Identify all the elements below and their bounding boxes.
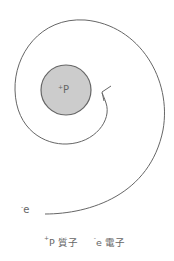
nucleus-label: +P: [58, 84, 69, 95]
arrow-head-icon: [102, 86, 111, 101]
electron-label: -e: [21, 204, 29, 215]
legend-item-proton: +P 質子: [44, 237, 81, 248]
electron-spiral-path: [15, 20, 165, 214]
atom-diagram: [0, 0, 174, 261]
legend-item-electron: -e 電子: [94, 237, 125, 248]
legend: +P 質子 -e 電子: [44, 235, 125, 249]
